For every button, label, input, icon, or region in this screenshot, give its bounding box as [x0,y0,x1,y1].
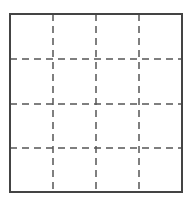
inner-grid-lines [10,14,182,192]
dashed-grid-diagram [0,0,192,204]
